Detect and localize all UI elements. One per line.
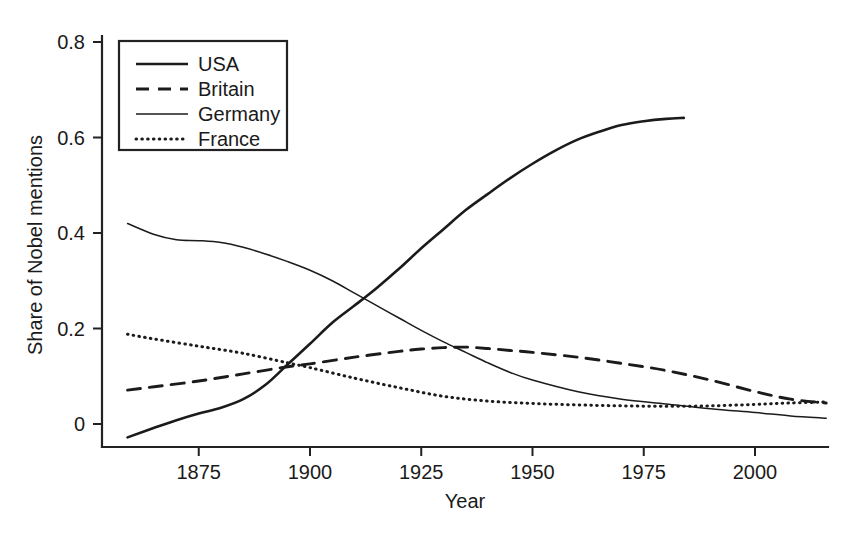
chart-legend: USABritainGermanyFrance <box>119 41 287 150</box>
nobel-mentions-line-chart: 187519001925195019752000 00.20.40.60.8 Y… <box>0 0 860 544</box>
legend-label-britain: Britain <box>198 78 255 100</box>
x-axis-ticks: 187519001925195019752000 <box>177 447 778 483</box>
y-tick-label: 0.6 <box>57 127 85 149</box>
x-tick-label: 1950 <box>510 461 555 483</box>
x-tick-label: 2000 <box>733 461 778 483</box>
y-tick-label: 0.8 <box>57 31 85 53</box>
x-tick-label: 1975 <box>622 461 667 483</box>
x-tick-label: 1925 <box>399 461 444 483</box>
y-tick-label: 0 <box>74 413 85 435</box>
y-axis-ticks: 00.20.40.60.8 <box>57 31 102 435</box>
x-tick-label: 1900 <box>288 461 333 483</box>
y-tick-label: 0.2 <box>57 318 85 340</box>
legend-label-france: France <box>198 128 260 150</box>
series-line-germany <box>128 223 827 418</box>
legend-label-usa: USA <box>198 53 240 75</box>
series-line-britain <box>128 347 827 403</box>
series-lines <box>128 118 827 437</box>
legend-label-germany: Germany <box>198 103 280 125</box>
series-line-france <box>128 334 827 406</box>
x-axis-title: Year <box>445 490 486 512</box>
x-tick-label: 1875 <box>177 461 222 483</box>
y-axis-title: Share of Nobel mentions <box>24 135 46 355</box>
y-tick-label: 0.4 <box>57 222 85 244</box>
